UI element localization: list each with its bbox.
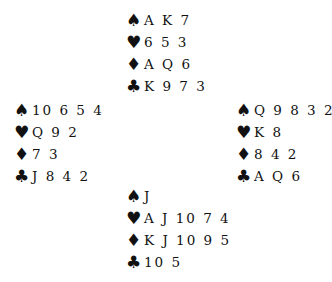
- south-clubs-row: ♣10 5: [126, 251, 231, 273]
- east-clubs-row: ♣A Q 6: [236, 165, 332, 187]
- spade-icon: ♠: [236, 102, 254, 119]
- heart-icon: ♥: [126, 210, 144, 227]
- north-clubs: K 9 7 3: [144, 78, 207, 94]
- diamond-icon: ♦: [126, 56, 144, 73]
- club-icon: ♣: [126, 78, 144, 95]
- heart-icon: ♥: [14, 124, 32, 141]
- diamond-icon: ♦: [14, 146, 32, 163]
- diamond-icon: ♦: [236, 146, 254, 163]
- north-spades-row: ♠A K 7: [126, 9, 207, 31]
- west-hearts: Q 9 2: [32, 124, 79, 140]
- south-diamonds: K J 10 9 5: [144, 232, 231, 248]
- north-diamonds: A Q 6: [144, 56, 192, 72]
- club-icon: ♣: [236, 168, 254, 185]
- south-spades-row: ♠J: [126, 185, 231, 207]
- north-clubs-row: ♣K 9 7 3: [126, 75, 207, 97]
- south-hand: ♠J ♥A J 10 7 4 ♦K J 10 9 5 ♣10 5: [126, 185, 231, 273]
- south-hearts-row: ♥A J 10 7 4: [126, 207, 231, 229]
- east-spades-row: ♠Q 9 8 3 2: [236, 99, 332, 121]
- west-diamonds: 7 3: [32, 146, 59, 162]
- spade-icon: ♠: [14, 102, 32, 119]
- heart-icon: ♥: [126, 34, 144, 51]
- west-diamonds-row: ♦7 3: [14, 143, 104, 165]
- west-hearts-row: ♥Q 9 2: [14, 121, 104, 143]
- east-diamonds: 8 4 2: [254, 146, 298, 162]
- club-icon: ♣: [14, 168, 32, 185]
- club-icon: ♣: [126, 254, 144, 271]
- east-clubs: A Q 6: [254, 168, 302, 184]
- north-spades: A K 7: [144, 12, 191, 28]
- south-hearts: A J 10 7 4: [144, 210, 231, 226]
- west-clubs-row: ♣J 8 4 2: [14, 165, 104, 187]
- south-clubs: 10 5: [144, 254, 182, 270]
- east-hearts: K 8: [254, 124, 283, 140]
- spade-icon: ♠: [126, 188, 144, 205]
- south-diamonds-row: ♦K J 10 9 5: [126, 229, 231, 251]
- west-spades-row: ♠10 6 5 4: [14, 99, 104, 121]
- north-hand: ♠A K 7 ♥6 5 3 ♦A Q 6 ♣K 9 7 3: [126, 9, 207, 97]
- west-hand: ♠10 6 5 4 ♥Q 9 2 ♦7 3 ♣J 8 4 2: [14, 99, 104, 187]
- west-clubs: J 8 4 2: [32, 168, 90, 184]
- heart-icon: ♥: [236, 124, 254, 141]
- spade-icon: ♠: [126, 12, 144, 29]
- east-spades: Q 9 8 3 2: [254, 102, 332, 118]
- west-spades: 10 6 5 4: [32, 102, 104, 118]
- north-hearts: 6 5 3: [144, 34, 188, 50]
- north-hearts-row: ♥6 5 3: [126, 31, 207, 53]
- east-hearts-row: ♥K 8: [236, 121, 332, 143]
- north-diamonds-row: ♦A Q 6: [126, 53, 207, 75]
- east-hand: ♠Q 9 8 3 2 ♥K 8 ♦8 4 2 ♣A Q 6: [236, 99, 332, 187]
- east-diamonds-row: ♦8 4 2: [236, 143, 332, 165]
- diamond-icon: ♦: [126, 232, 144, 249]
- south-spades: J: [144, 188, 151, 204]
